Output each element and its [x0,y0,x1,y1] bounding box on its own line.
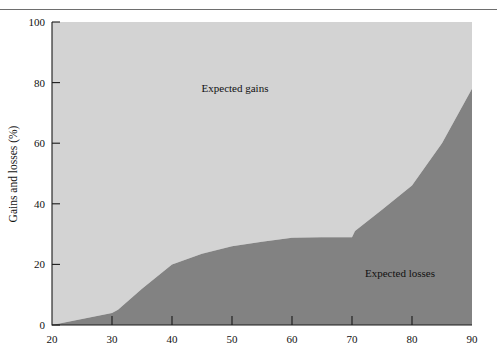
x-tick-label-40: 40 [167,333,179,345]
y-tick-label-40: 40 [34,198,46,210]
y-tick-label-60: 60 [34,137,46,149]
y-tick-label-80: 80 [34,77,46,89]
x-tick-label-90: 90 [467,333,479,345]
x-tick-label-60: 60 [287,333,299,345]
x-tick-label-30: 30 [107,333,119,345]
y-axis-tick-labels: 020406080100 [29,16,46,331]
annotation-expected-losses: Expected losses [365,267,435,279]
annotation-expected-gains: Expected gains [202,82,269,94]
y-tick-label-20: 20 [34,258,46,270]
x-tick-label-20: 20 [47,333,59,345]
y-tick-label-100: 100 [29,16,46,28]
chart-page: 020406080100 2030405060708090 Expected g… [0,0,497,351]
y-axis-title: Gains and losses (%) [7,125,20,222]
x-axis-tick-labels: 2030405060708090 [47,333,479,345]
x-tick-label-70: 70 [347,333,359,345]
series-group [52,22,472,325]
x-tick-label-80: 80 [407,333,419,345]
x-tick-label-50: 50 [227,333,239,345]
y-tick-label-0: 0 [40,319,46,331]
plot-area-container: 020406080100 2030405060708090 Expected g… [0,0,497,351]
area-chart-svg: 020406080100 2030405060708090 Expected g… [0,0,497,351]
